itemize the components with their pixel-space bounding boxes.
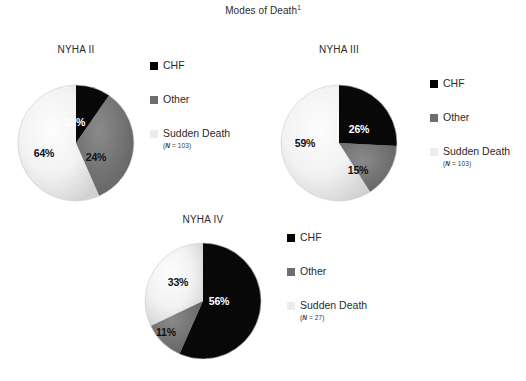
legend-item-other: Other [150, 94, 230, 105]
legend-label-sudden-death: Sudden Death [300, 300, 367, 311]
legend-swatch-other-icon [150, 96, 158, 104]
pie-chart-nyha-ii: 12% 24% 64% [17, 84, 135, 202]
legend-nyha-iv: CHF Other Sudden Death (N = 27) [287, 232, 367, 321]
legend-label-other: Other [163, 94, 189, 105]
legend-swatch-sudden-death-icon [430, 148, 438, 156]
legend-swatch-sudden-death-icon [150, 130, 158, 138]
legend-swatch-chf-icon [150, 62, 158, 70]
legend-sample-size-nyha-ii: (N = 103) [163, 142, 230, 149]
pie-label-sudden-death: 33% [168, 276, 189, 288]
pie-svg-nyha-iii: 26% 15% 59% [280, 84, 398, 202]
legend-item-sudden-death: Sudden Death [287, 300, 367, 311]
legend-sample-size-nyha-iii: (N = 103) [443, 160, 510, 167]
figure-title-superscript: 1 [297, 4, 301, 11]
pie-label-chf: 12% [65, 116, 86, 128]
pie-svg-nyha-ii: 12% 24% 64% [17, 84, 135, 202]
figure-title-text: Modes of Death [225, 5, 297, 16]
legend-label-other: Other [300, 266, 326, 277]
legend-sample-size-nyha-iv: (N = 27) [300, 314, 367, 321]
pie-chart-nyha-iii: 26% 15% 59% [280, 84, 398, 202]
pie-svg-nyha-iv: 56% 11% 33% [144, 242, 262, 360]
pie-title-nyha-iii: NYHA III [299, 44, 379, 55]
legend-label-chf: CHF [443, 78, 465, 89]
legend-item-other: Other [430, 112, 510, 123]
legend-label-sudden-death: Sudden Death [163, 128, 230, 139]
legend-swatch-chf-icon [430, 80, 438, 88]
pie-label-sudden-death: 64% [34, 147, 55, 159]
pie-title-nyha-iv: NYHA IV [163, 214, 243, 225]
pie-label-other: 11% [156, 326, 177, 338]
pie-label-chf: 56% [209, 295, 230, 307]
figure-title: Modes of Death1 [0, 5, 526, 16]
legend-swatch-chf-icon [287, 234, 295, 242]
pie-title-nyha-ii: NYHA II [36, 44, 116, 55]
legend-swatch-other-icon [287, 268, 295, 276]
legend-nyha-iii: CHF Other Sudden Death (N = 103) [430, 78, 510, 167]
pie-slice-chf [339, 85, 397, 146]
pie-label-chf: 26% [349, 123, 370, 135]
legend-label-chf: CHF [300, 232, 322, 243]
pie-label-other: 15% [348, 164, 369, 176]
legend-label-chf: CHF [163, 60, 185, 71]
legend-item-other: Other [287, 266, 367, 277]
legend-swatch-sudden-death-icon [287, 302, 295, 310]
legend-swatch-other-icon [430, 114, 438, 122]
legend-item-sudden-death: Sudden Death [430, 146, 510, 157]
legend-nyha-ii: CHF Other Sudden Death (N = 103) [150, 60, 230, 149]
legend-label-sudden-death: Sudden Death [443, 146, 510, 157]
legend-item-sudden-death: Sudden Death [150, 128, 230, 139]
legend-item-chf: CHF [287, 232, 367, 243]
legend-item-chf: CHF [150, 60, 230, 71]
pie-label-other: 24% [86, 151, 107, 163]
legend-item-chf: CHF [430, 78, 510, 89]
pie-label-sudden-death: 59% [295, 137, 316, 149]
legend-label-other: Other [443, 112, 469, 123]
pie-chart-nyha-iv: 56% 11% 33% [144, 242, 262, 360]
